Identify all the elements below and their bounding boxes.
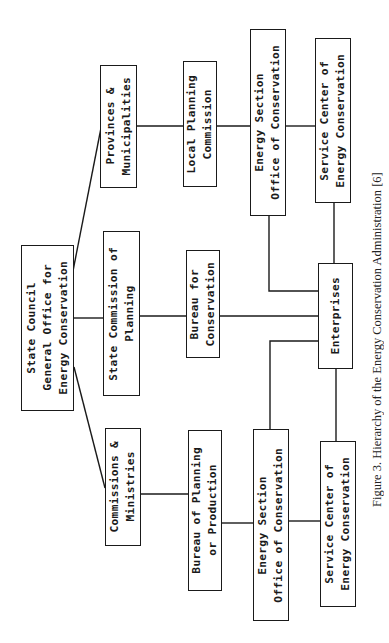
node-label: Bureau of Planning or Production xyxy=(189,447,221,574)
node-local-planning-commission: Local Planning Commission xyxy=(183,61,217,187)
node-label: State Commission of Planning xyxy=(106,247,138,381)
node-state-council: State Council General Office for Energy … xyxy=(21,245,74,411)
figure-caption: Figure 3. Hierarchy of the Energy Conser… xyxy=(367,50,387,630)
node-enterprises: Enterprises xyxy=(318,263,353,369)
node-state-commission-planning: State Commission of Planning xyxy=(103,231,140,396)
node-label: Local Planning Commission xyxy=(184,75,216,174)
node-commissions-ministries: Commissions & Ministries xyxy=(105,428,141,546)
node-bureau-planning-production: Bureau of Planning or Production xyxy=(188,430,222,591)
node-energy-section-bottom: Energy Section Office of Conservation xyxy=(253,429,289,621)
node-service-center-bottom: Service Center of Energy Conservation xyxy=(320,441,356,607)
node-label: Service Center of Energy Conservation xyxy=(317,54,349,188)
node-label: Provinces & Municipalities xyxy=(103,77,135,176)
node-bureau-conservation: Bureau for Conservation xyxy=(186,250,220,358)
node-label: Service Center of Energy Conservation xyxy=(322,457,354,591)
node-label: Bureau for Conservation xyxy=(187,262,219,346)
node-provinces-municipalities: Provinces & Municipalities xyxy=(100,65,137,188)
node-energy-section-top: Energy Section Office of Conservation xyxy=(250,29,286,216)
node-label: Energy Section Office of Conservation xyxy=(255,448,287,603)
node-label: Commissions & Ministries xyxy=(107,441,139,532)
node-service-center-top: Service Center of Energy Conservation xyxy=(315,38,351,203)
node-label: Energy Section Office of Conservation xyxy=(252,45,284,200)
node-label: Enterprises xyxy=(328,277,344,354)
node-label: State Council General Office for Energy … xyxy=(24,261,72,395)
